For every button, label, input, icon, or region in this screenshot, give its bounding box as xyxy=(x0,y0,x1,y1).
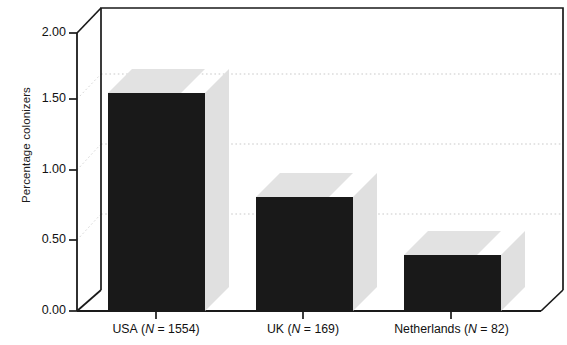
bar-uk-side xyxy=(353,173,377,311)
paren-close: ) xyxy=(505,322,509,336)
depth-edge-bottom-right xyxy=(541,290,563,311)
depth-edge-top-left xyxy=(77,8,101,33)
x-tick-label-netherlands: Netherlands (N = 82) xyxy=(359,322,544,336)
bar-chart: Percentage colonizers 2.00 1.50 1.00 0.5… xyxy=(0,0,567,345)
n-symbol: N xyxy=(468,322,477,336)
x-axis-ticks xyxy=(156,311,451,319)
x-tick-label-uk: UK (N = 169) xyxy=(228,322,378,336)
x-tick-label-usa: USA (N = 1554) xyxy=(76,322,236,336)
bar-uk-front xyxy=(256,197,353,311)
x-tick-label-netherlands-name: Netherlands xyxy=(394,322,460,336)
bar-netherlands-front xyxy=(404,255,501,311)
x-tick-label-uk-name: UK xyxy=(267,322,284,336)
depth-edge-bottom-left xyxy=(77,290,101,311)
y-axis-ticks xyxy=(69,33,77,311)
sidewall-gridlines xyxy=(77,74,101,240)
x-tick-label-usa-name: USA xyxy=(112,322,137,336)
paren-open: ( xyxy=(284,322,292,336)
paren-close: ) xyxy=(335,322,339,336)
bar-usa-front xyxy=(108,93,205,311)
paren-close: ) xyxy=(195,322,199,336)
bar-usa-side xyxy=(205,69,229,311)
x-tick-label-netherlands-n: = 82 xyxy=(477,322,505,336)
x-tick-label-uk-n: = 169 xyxy=(300,322,335,336)
x-tick-label-usa-n: = 1554 xyxy=(154,322,195,336)
n-symbol: N xyxy=(145,322,154,336)
paren-open: ( xyxy=(461,322,469,336)
